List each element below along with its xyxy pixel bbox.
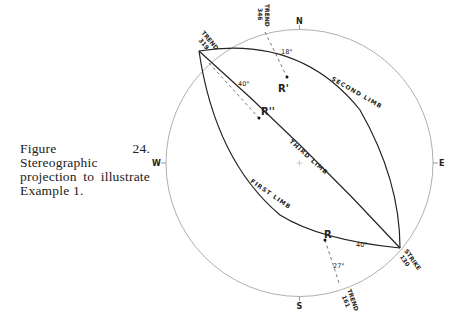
angle-27: 27° bbox=[333, 262, 345, 270]
angle-18: 18° bbox=[281, 48, 293, 56]
svg-text:346: 346 bbox=[257, 8, 264, 21]
angle-40-upper: 40° bbox=[238, 80, 250, 88]
r-label: R bbox=[324, 229, 332, 240]
trend-319-line bbox=[209, 63, 259, 118]
west-label: W bbox=[152, 159, 161, 168]
r-double-prime-label: R'' bbox=[261, 106, 275, 117]
trend-346-label: TREND 346 bbox=[257, 4, 271, 27]
angle-40-lower: 40° bbox=[356, 241, 368, 249]
center-cross-icon bbox=[297, 160, 303, 166]
strike-130-label: STRIKE 130 bbox=[397, 248, 422, 276]
third-limb-label: THIRD LIMB bbox=[288, 138, 330, 176]
second-limb-label: SECOND LIMB bbox=[331, 75, 384, 110]
point-r-prime bbox=[286, 76, 289, 79]
east-label: E bbox=[439, 159, 444, 168]
trend-lines bbox=[209, 32, 340, 286]
south-label: S bbox=[297, 302, 303, 311]
trend-161-label: TREND 161 bbox=[339, 288, 360, 314]
north-label: N bbox=[296, 17, 303, 26]
first-limb-label: FIRST LIMB bbox=[249, 177, 292, 210]
svg-text:TREND: TREND bbox=[264, 4, 271, 27]
r-prime-label: R' bbox=[278, 83, 289, 94]
stereonet: N S W E R' R'' R 18° 40° 40° 27° SECOND … bbox=[0, 0, 457, 329]
